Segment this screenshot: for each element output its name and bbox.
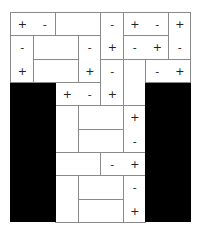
horizontal-domino[interactable] — [33, 59, 79, 83]
plus-pole-icon: + — [124, 13, 147, 36]
minus-pole-icon: - — [101, 13, 124, 36]
plus-pole-icon: + — [124, 200, 147, 223]
horizontal-domino[interactable] — [33, 35, 79, 59]
minus-pole-icon: - — [124, 130, 147, 153]
minus-pole-icon: - — [169, 36, 192, 59]
minus-pole-icon: - — [146, 60, 169, 83]
minus-pole-icon: - — [124, 36, 147, 59]
plus-pole-icon: + — [124, 153, 147, 176]
minus-pole-icon: - — [146, 13, 169, 36]
horizontal-domino[interactable] — [78, 129, 124, 153]
plus-pole-icon: + — [101, 36, 124, 59]
plus-pole-icon: + — [169, 13, 192, 36]
vertical-domino[interactable] — [55, 105, 79, 153]
plus-pole-icon: + — [169, 60, 192, 83]
horizontal-domino[interactable] — [78, 105, 124, 129]
minus-pole-icon: - — [79, 83, 102, 106]
minus-pole-icon: - — [79, 36, 102, 59]
plus-pole-icon: + — [11, 13, 34, 36]
magnets-puzzle-board: +--+-+--+-+-++--++-++--+-+ — [10, 12, 190, 222]
blocked-region — [145, 83, 191, 222]
minus-pole-icon: - — [101, 60, 124, 83]
minus-pole-icon: - — [34, 13, 57, 36]
blocked-region — [10, 83, 56, 222]
plus-pole-icon: + — [124, 106, 147, 129]
minus-pole-icon: - — [101, 153, 124, 176]
vertical-domino[interactable] — [123, 59, 147, 107]
horizontal-domino[interactable] — [78, 175, 124, 199]
horizontal-domino[interactable] — [78, 199, 124, 223]
plus-pole-icon: + — [101, 83, 124, 106]
plus-pole-icon: + — [146, 36, 169, 59]
minus-pole-icon: - — [124, 176, 147, 199]
plus-pole-icon: + — [79, 60, 102, 83]
minus-pole-icon: - — [11, 36, 34, 59]
plus-pole-icon: + — [56, 83, 79, 106]
horizontal-domino[interactable] — [55, 152, 101, 176]
horizontal-domino[interactable] — [55, 12, 101, 36]
plus-pole-icon: + — [11, 60, 34, 83]
vertical-domino[interactable] — [55, 175, 79, 223]
